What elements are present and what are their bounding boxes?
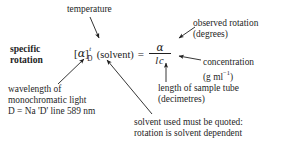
alpha-symbol: α bbox=[78, 47, 85, 60]
wavelength-line2: monochromatic light bbox=[8, 95, 95, 106]
rotation-fraction: α lc bbox=[149, 42, 171, 66]
concentration-label: concentration (g ml−1) bbox=[203, 57, 254, 84]
wavelength-subscript: D bbox=[87, 55, 92, 63]
solvent-note-line1: solvent used must be quoted: bbox=[134, 117, 243, 128]
specific-rotation-line2: rotation bbox=[10, 54, 43, 65]
solvent-term: (solvent) bbox=[97, 48, 134, 61]
specific-rotation-diagram: temperature specific rotation [α]tD (sol… bbox=[0, 0, 286, 149]
solvent-arrow bbox=[107, 60, 152, 114]
temperature-arrow bbox=[90, 17, 99, 38]
length-line2: (decimetres) bbox=[158, 94, 239, 105]
wavelength-line1: wavelength of bbox=[8, 84, 95, 95]
observed-rotation-label: observed rotation (degrees) bbox=[193, 18, 258, 40]
specific-rotation-heading: specific rotation bbox=[10, 43, 43, 66]
length-line1: length of sample tube bbox=[158, 83, 239, 94]
concentration-variable: c bbox=[159, 55, 165, 66]
observed-rotation-line2: (degrees) bbox=[193, 29, 258, 40]
temperature-superscript: t bbox=[89, 45, 91, 52]
fraction-numerator: α bbox=[152, 42, 167, 54]
wavelength-line3: D = Na 'D' line 589 nm bbox=[8, 106, 95, 117]
sample-tube-length-label: length of sample tube (decimetres) bbox=[158, 83, 239, 105]
temperature-label: temperature bbox=[67, 4, 112, 15]
concentration-units: (g ml−1) bbox=[203, 68, 254, 83]
solvent-note-label: solvent used must be quoted: rotation is… bbox=[134, 117, 243, 139]
solvent-note-line2: rotation is solvent dependent bbox=[134, 128, 243, 139]
observed-rotation-line1: observed rotation bbox=[193, 18, 258, 29]
wavelength-label: wavelength of monochromatic light D = Na… bbox=[8, 84, 95, 118]
specific-rotation-line1: specific bbox=[10, 43, 43, 54]
concentration-arrow bbox=[179, 56, 201, 60]
concentration-units-prefix: (g ml bbox=[203, 72, 223, 82]
concentration-units-suffix: ) bbox=[230, 72, 233, 82]
specific-rotation-equation: [α]tD (solvent) = α lc bbox=[74, 42, 171, 66]
equation-bracket-term: [α]tD bbox=[74, 43, 96, 65]
concentration-line1: concentration bbox=[203, 57, 254, 68]
equals-sign: = bbox=[138, 48, 144, 61]
fraction-denominator: lc bbox=[151, 54, 169, 66]
concentration-units-exponent: −1 bbox=[223, 69, 230, 76]
